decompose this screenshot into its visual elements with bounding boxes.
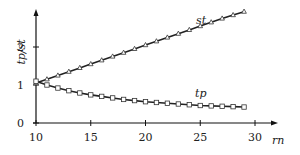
- y-tick-label: 1: [17, 79, 24, 92]
- x-axis-arrow-icon: [271, 121, 278, 126]
- square-marker-icon: [143, 100, 147, 104]
- square-marker-icon: [132, 98, 136, 102]
- x-tick-label: 30: [248, 131, 262, 144]
- square-marker-icon: [45, 83, 49, 87]
- x-tick-label: 15: [84, 131, 98, 144]
- x-tick-label: 10: [29, 131, 43, 144]
- square-marker-icon: [121, 97, 125, 101]
- square-marker-icon: [242, 105, 246, 109]
- square-marker-icon: [176, 102, 180, 106]
- series-line-tp: [36, 81, 244, 107]
- y-axis-label: tp/st: [15, 39, 28, 65]
- axes: [33, 9, 278, 126]
- series-label-tp: tp: [195, 87, 206, 100]
- square-marker-icon: [220, 104, 224, 108]
- square-marker-icon: [198, 103, 202, 107]
- x-tick-label: 25: [193, 131, 207, 144]
- square-marker-icon: [34, 79, 38, 83]
- square-marker-icon: [231, 104, 235, 108]
- series-label-st: st: [196, 14, 207, 27]
- ticks: 1015202530012: [17, 41, 262, 144]
- square-marker-icon: [165, 101, 169, 105]
- line-chart: 1015202530012 tp/st rn st tp: [0, 0, 300, 155]
- square-marker-icon: [209, 104, 213, 108]
- x-tick-label: 20: [139, 131, 153, 144]
- square-marker-icon: [56, 86, 60, 90]
- square-marker-icon: [89, 93, 93, 97]
- x-axis-label: rn: [272, 134, 284, 147]
- square-marker-icon: [110, 96, 114, 100]
- y-tick-label: 0: [17, 117, 24, 130]
- triangle-marker-icon: [242, 9, 247, 13]
- y-axis-arrow-icon: [34, 9, 39, 16]
- series: [34, 9, 247, 109]
- square-marker-icon: [154, 100, 158, 104]
- square-marker-icon: [67, 89, 71, 93]
- square-marker-icon: [100, 94, 104, 98]
- square-marker-icon: [187, 103, 191, 107]
- square-marker-icon: [78, 91, 82, 95]
